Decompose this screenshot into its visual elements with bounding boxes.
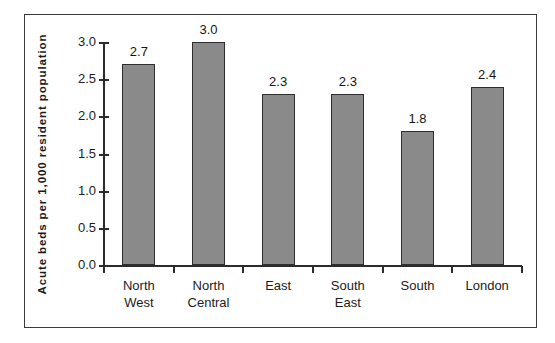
y-tick-label: 1.0 — [78, 183, 96, 198]
x-category-label: South — [401, 277, 435, 294]
x-tick-mark — [103, 266, 105, 273]
bar-value-label: 2.7 — [130, 44, 148, 59]
bar: 2.3 — [331, 94, 364, 265]
y-tick-label: 2.5 — [78, 71, 96, 86]
x-tick-mark — [173, 266, 175, 273]
y-tick-label: 0.0 — [78, 257, 96, 272]
y-tick-mark — [99, 191, 109, 193]
y-axis-title: Acute beds per 1,000 resident population — [36, 34, 48, 295]
chart-figure: Acute beds per 1,000 resident population… — [0, 0, 555, 343]
x-category-label-line: South — [401, 277, 435, 294]
plot-area: 0.00.51.01.52.02.53.0 2.73.02.32.31.82.4… — [104, 42, 522, 265]
x-category-label: NorthCentral — [188, 277, 230, 311]
y-tick-label: 2.0 — [78, 108, 96, 123]
x-category-label-line: South — [331, 277, 365, 294]
x-category-label-line: East — [265, 277, 291, 294]
x-tick-mark — [451, 266, 453, 273]
bar: 2.7 — [122, 64, 155, 265]
bar-value-label: 2.3 — [269, 74, 287, 89]
x-category-label: London — [465, 277, 508, 294]
bar: 2.4 — [471, 87, 504, 265]
bar: 1.8 — [401, 131, 434, 265]
bar-value-label: 3.0 — [199, 22, 217, 37]
x-category-label-line: West — [123, 294, 155, 311]
y-tick-label: 3.0 — [78, 34, 96, 49]
x-category-label: NorthWest — [123, 277, 155, 311]
x-category-label-line: Central — [188, 294, 230, 311]
x-category-label-line: London — [465, 277, 508, 294]
y-tick-mark — [99, 116, 109, 118]
x-category-label: East — [265, 277, 291, 294]
y-tick-mark — [99, 42, 109, 44]
y-axis-title-container: Acute beds per 1,000 resident population — [28, 14, 56, 314]
y-tick-mark — [99, 79, 109, 81]
x-tick-mark — [382, 266, 384, 273]
y-tick-label: 0.5 — [78, 220, 96, 235]
bar-value-label: 2.4 — [478, 67, 496, 82]
x-tick-mark — [242, 266, 244, 273]
y-tick-mark — [99, 154, 109, 156]
bar: 2.3 — [262, 94, 295, 265]
x-category-label-line: North — [123, 277, 155, 294]
x-category-label-line: East — [331, 294, 365, 311]
bar: 3.0 — [192, 42, 225, 265]
x-category-label-line: North — [188, 277, 230, 294]
x-category-label: SouthEast — [331, 277, 365, 311]
x-tick-mark — [312, 266, 314, 273]
bar-value-label: 1.8 — [408, 111, 426, 126]
bar-value-label: 2.3 — [339, 74, 357, 89]
y-tick-label: 1.5 — [78, 146, 96, 161]
y-tick-mark — [99, 228, 109, 230]
x-tick-mark — [521, 266, 523, 273]
